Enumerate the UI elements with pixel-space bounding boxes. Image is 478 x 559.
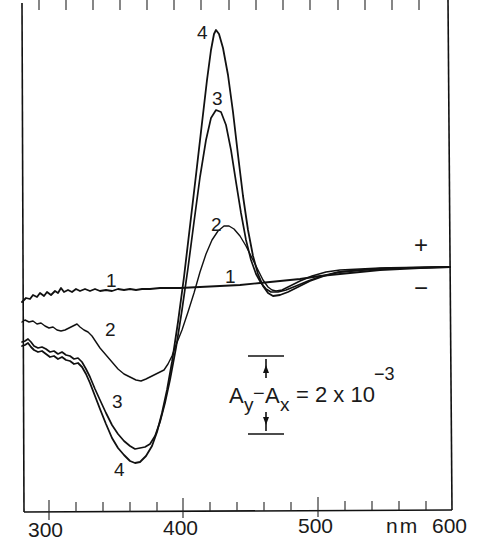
x-label-600: 600 [432,514,467,537]
svg-text:= 2 x 10: = 2 x 10 [296,382,375,407]
svg-text:A: A [265,383,280,408]
curve-label-4-left: 4 [114,459,125,480]
bottom-axis-ticks [49,497,426,520]
curve-label-1-left: 1 [106,270,117,291]
svg-text:A: A [229,383,244,408]
x-label-300: 300 [28,518,63,541]
svg-text:−: − [253,382,265,404]
x-label-400: 400 [163,516,198,539]
curve-1 [22,267,450,302]
svg-text:x: x [280,394,290,415]
svg-text:−3: −3 [374,364,395,384]
minus-sign: − [414,274,428,301]
x-unit-label: nm [386,514,419,537]
curve-label-2-left: 2 [105,319,116,340]
curve-label-1-right: 1 [225,266,236,287]
x-axis-labels: 300 400 500 nm 600 [28,514,467,541]
top-axis-ticks [39,0,419,10]
scale-bar-label: A y − A x = 2 x 10 −3 [229,364,395,415]
curve-label-4-right: 4 [197,22,208,43]
curve-label-3-left: 3 [112,391,123,412]
plus-sign: + [414,231,428,258]
plot-frame [22,0,452,512]
x-label-500: 500 [298,514,333,537]
spectrum-chart: 300 400 500 nm 600 1 1 2 2 3 3 4 4 + − [0,0,478,559]
curve-2 [22,226,450,381]
curve-labels: 1 1 2 2 3 3 4 4 [105,22,236,480]
curve-label-3-right: 3 [212,88,223,109]
sign-indicators: + − [414,231,428,301]
curve-label-2-right: 2 [211,214,222,235]
